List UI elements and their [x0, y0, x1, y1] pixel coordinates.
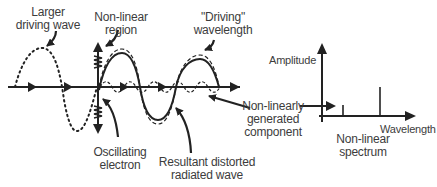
- axis-arrow-5: [230, 82, 240, 92]
- label-non-linear-spectrum: Non-linear spectrum: [333, 133, 393, 159]
- axis-arrow-1: [28, 82, 37, 92]
- label-line: component: [234, 126, 312, 139]
- label-line: spectrum: [333, 146, 393, 159]
- spectrum-y-axis-label: Amplitude: [269, 54, 316, 67]
- label-non-linear-region: Non-linear region: [88, 11, 154, 37]
- axis-arrow-3: [120, 82, 129, 92]
- larger-driving-wave-curve: [15, 48, 97, 131]
- label-driving-wavelength: "Driving" wavelength: [188, 11, 258, 37]
- label-line: region: [88, 24, 154, 37]
- label-line: radiated wave: [152, 169, 262, 182]
- non-linear-spectrum-plot: [300, 43, 416, 122]
- pointer-resultant-wave: [176, 108, 191, 153]
- pointer-driving-wavelength: [205, 40, 214, 50]
- pointer-larger-driving-wave: [47, 31, 56, 46]
- label-line: wavelength: [188, 24, 258, 37]
- label-oscillating-electron: Oscillating electron: [84, 146, 156, 172]
- label-larger-driving-wave: Larger driving wave: [6, 6, 90, 32]
- label-line: electron: [84, 159, 156, 172]
- label-non-linearly-generated-component: Non-linearly generated component: [234, 100, 312, 139]
- label-line: driving wave: [6, 19, 90, 32]
- label-resultant-distorted-wave: Resultant distorted radiated wave: [152, 156, 262, 182]
- pointer-oscillating-electron: [103, 99, 118, 137]
